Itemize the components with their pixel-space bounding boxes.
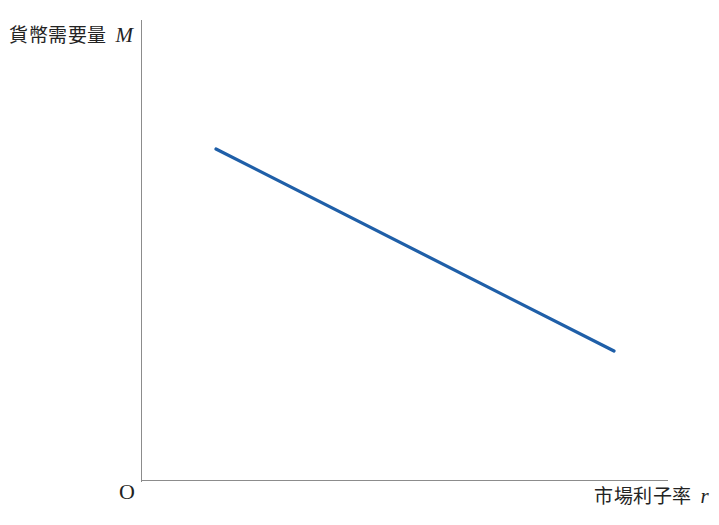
chart-figure: 貨幣需要量M 市場利子率r O	[0, 0, 719, 525]
curve-svg	[0, 0, 719, 525]
plot-area	[0, 0, 719, 525]
money-demand-curve	[216, 149, 614, 351]
